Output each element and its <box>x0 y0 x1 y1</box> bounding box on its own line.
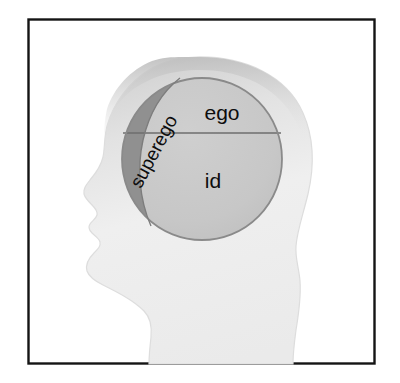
figure-container: ego id superego <box>0 0 400 383</box>
psyche-diagram: ego id superego <box>0 0 400 383</box>
ego-label: ego <box>204 101 239 124</box>
id-label: id <box>205 169 221 192</box>
